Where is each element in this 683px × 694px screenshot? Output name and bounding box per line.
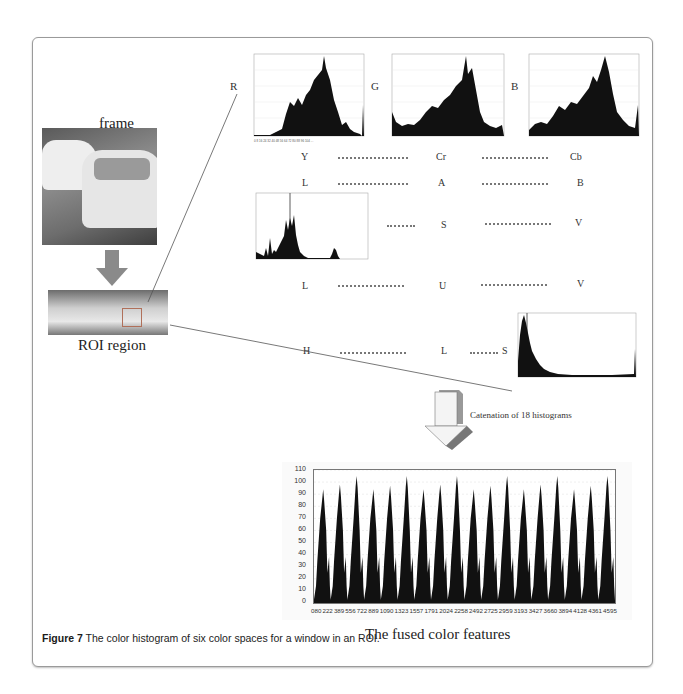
- connector-dots: [482, 183, 548, 185]
- connector-dots: [485, 223, 551, 225]
- figure-caption: Figure 7 The color histogram of six colo…: [42, 632, 380, 644]
- y-tick: 70: [282, 513, 306, 520]
- connector-dots: [481, 284, 547, 286]
- histogram-h: [250, 190, 370, 270]
- histogram-r: 0 8 16 24 32 40 48 56 64 72 80 88 96 104…: [250, 50, 366, 150]
- fused-title: The fused color features: [365, 626, 510, 643]
- x-tick: 722: [357, 607, 367, 614]
- x-tick: 1791: [424, 607, 438, 614]
- connector-dots: [338, 157, 408, 159]
- x-tick: 889: [368, 607, 378, 614]
- label-hls-s: S: [502, 345, 508, 356]
- y-tick: 0: [282, 597, 306, 604]
- y-tick: 10: [282, 585, 306, 592]
- x-tick: 389: [334, 607, 344, 614]
- x-tick: 3894: [558, 607, 572, 614]
- x-tick: 2024: [439, 607, 453, 614]
- connector-dots: [470, 352, 498, 354]
- x-tick: 2492: [469, 607, 483, 614]
- fused-plot-area: [313, 469, 616, 604]
- label-hsv-s: S: [441, 219, 447, 230]
- label-lab-l: L: [302, 177, 308, 188]
- x-tick-labels: 0802223895567228891090132315571791202422…: [311, 607, 617, 614]
- label-b: B: [511, 80, 518, 92]
- x-tick: 2725: [484, 607, 498, 614]
- label-y: Y: [301, 151, 308, 162]
- y-tick: 20: [282, 573, 306, 580]
- caption-label: Figure 7: [42, 632, 83, 644]
- label-lab-b: B: [577, 177, 584, 188]
- y-tick: 110: [282, 465, 306, 472]
- x-tick: 2959: [499, 607, 513, 614]
- label-lab-a: A: [438, 177, 445, 188]
- connector-dots: [338, 183, 408, 185]
- label-hsv-v: V: [575, 217, 582, 228]
- histogram-s: [512, 311, 640, 389]
- label-cr: Cr: [436, 151, 446, 162]
- connector-dots: [482, 157, 548, 159]
- y-tick: 80: [282, 501, 306, 508]
- y-tick: 40: [282, 549, 306, 556]
- x-tick: 3660: [544, 607, 558, 614]
- x-tick: 3427: [529, 607, 543, 614]
- label-hls-l: L: [441, 345, 447, 356]
- x-tick: 556: [345, 607, 355, 614]
- connector-dots: [338, 285, 404, 287]
- x-tick: 080: [311, 607, 321, 614]
- label-luv-l: L: [302, 280, 308, 291]
- connector-dots: [340, 352, 406, 354]
- label-luv-u: U: [439, 280, 446, 291]
- x-tick: 222: [322, 607, 332, 614]
- x-tick: 4361: [588, 607, 602, 614]
- fused-feature-chart: 110 100 90 80 70 60 50 40 30 20 10 0: [282, 462, 632, 620]
- label-cb: Cb: [570, 151, 582, 162]
- x-tick: 2258: [454, 607, 468, 614]
- svg-text:0 8 16 24 32 40 48 56 64 72 80: 0 8 16 24 32 40 48 56 64 72 80 88 96 104…: [254, 139, 313, 143]
- histogram-g: [388, 50, 506, 150]
- x-tick: 4595: [603, 607, 617, 614]
- histogram-b: [525, 50, 643, 150]
- y-tick: 90: [282, 489, 306, 496]
- y-tick: 60: [282, 525, 306, 532]
- x-tick: 4128: [573, 607, 587, 614]
- x-tick: 1557: [410, 607, 424, 614]
- x-tick: 3193: [514, 607, 528, 614]
- y-tick: 100: [282, 477, 306, 484]
- label-hls-h: H: [303, 345, 310, 356]
- label-g: G: [371, 80, 379, 92]
- label-luv-v: V: [577, 278, 584, 289]
- y-tick: 50: [282, 537, 306, 544]
- catenation-label: Catenation of 18 histograms: [470, 410, 572, 420]
- x-tick: 1090: [380, 607, 394, 614]
- connector-dots: [387, 225, 415, 227]
- caption-text: The color histogram of six color spaces …: [83, 632, 380, 644]
- label-r: R: [230, 80, 237, 92]
- x-tick: 1323: [395, 607, 409, 614]
- y-tick: 30: [282, 561, 306, 568]
